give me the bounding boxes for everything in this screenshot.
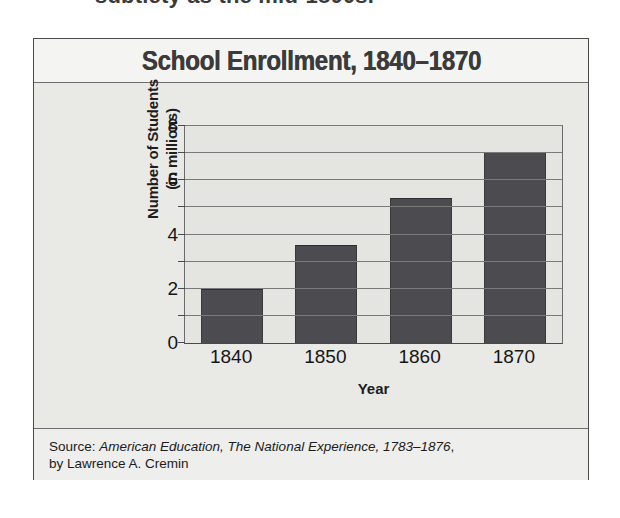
y-tick-label-0: 0 [150,333,178,352]
figure-card: School Enrollment, 1840–1870 Number of S… [33,38,589,480]
x-tick-label-1870: 1870 [467,347,561,366]
y-tick-mark [178,234,185,235]
source-citation: Source: American Education, The National… [34,428,588,480]
y-tick-label-8: 8 [150,116,178,135]
y-tick-label-4: 4 [150,224,178,243]
x-tick-label-1850: 1850 [278,347,372,366]
bars-layer [185,126,562,343]
y-tick-mark [178,125,185,126]
gridline [185,315,562,316]
gridline [185,206,562,207]
chart-body: Number of Students (in millions) 02468 1… [34,83,588,428]
clipped-page-text: subtlety as the mid-1800s. [0,0,620,14]
y-tick-label-2: 2 [150,278,178,297]
x-axis-title: Year [184,380,563,397]
x-tick-label-1860: 1860 [373,347,467,366]
y-tick-mark [178,261,185,262]
gridline [185,234,562,235]
x-tick-label-1840: 1840 [184,347,278,366]
page-title: School Enrollment, 1840–1870 [141,45,480,77]
bar-1840 [201,289,263,343]
y-axis-tick-labels: 02468 [146,125,178,342]
source-comma: , [451,439,455,454]
source-label: Source: [49,439,99,454]
clipped-page-text-label: subtlety as the mid-1800s. [95,0,374,9]
y-tick-mark [178,206,185,207]
gridline [185,125,562,126]
bar-1860 [390,198,452,343]
y-tick-label-6: 6 [150,170,178,189]
y-tick-mark [178,179,185,180]
y-tick-mark [178,152,185,153]
figure-title-band: School Enrollment, 1840–1870 [34,39,588,83]
y-tick-mark [178,288,185,289]
gridline [185,261,562,262]
source-citation-line-2: by Lawrence A. Cremin [49,455,588,472]
y-tick-mark [178,342,185,343]
gridline [185,179,562,180]
x-axis-tick-labels: 1840185018601870 [184,347,563,371]
y-tick-mark [178,315,185,316]
source-book-title: American Education, The National Experie… [99,439,450,454]
gridline [185,288,562,289]
source-citation-line-1: Source: American Education, The National… [49,438,588,455]
gridline [185,152,562,153]
plot-area [184,125,563,344]
